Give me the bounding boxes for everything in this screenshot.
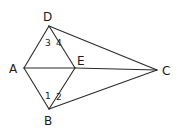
segment-ab [24,68,49,109]
segment-de [49,26,75,68]
point-label-d: D [43,10,52,24]
angle-label-3: 3 [45,38,51,48]
angle-label-2: 2 [56,92,62,102]
segment-bc [49,70,157,109]
segment-be [49,68,75,109]
angle-label-4: 4 [56,38,62,48]
point-label-a: A [9,62,18,76]
point-label-b: B [44,114,52,128]
angle-label-1: 1 [45,91,51,101]
geometry-diagram: D A E B C 3 4 1 2 [0,0,182,134]
diagram-canvas: D A E B C 3 4 1 2 [0,0,182,134]
segment-ec [75,68,157,70]
point-label-c: C [162,64,170,78]
point-label-e: E [77,54,85,68]
segment-dc [49,26,157,70]
